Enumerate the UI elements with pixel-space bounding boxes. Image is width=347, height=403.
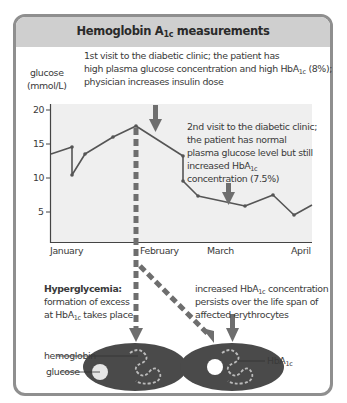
y-tick-10: 10 — [33, 171, 44, 184]
y-ticks — [46, 110, 50, 212]
hyperglycemia-annotation: Hyperglycemia: formation of excess at Hb… — [44, 282, 133, 321]
arrow-down-icon — [129, 328, 143, 342]
x-tick-april: April — [291, 244, 311, 257]
first-visit-arrow-shaft — [153, 105, 158, 120]
arrow-diagonal-icon — [202, 328, 214, 343]
persists-annotation: increased HbA1c concentration persists o… — [195, 282, 328, 321]
y-tick-20: 20 — [33, 103, 44, 116]
x-tick-february: February — [140, 244, 179, 257]
hba1c-label: HbA1c — [267, 354, 292, 367]
glucose-label: glucose — [46, 365, 80, 378]
first-visit-annotation: 1st visit to the diabetic clinic; the pa… — [84, 49, 332, 88]
y-tick-15: 15 — [33, 137, 44, 150]
y-tick-5: 5 — [38, 205, 44, 218]
hemoglobin-label: hemoglobin — [44, 349, 96, 362]
x-tick-january: January — [50, 244, 83, 257]
y-axis-label: glucose (mmol/L) — [27, 66, 67, 92]
x-tick-march: March — [207, 244, 234, 257]
second-visit-annotation: 2nd visit to the diabetic clinic; the pa… — [187, 120, 317, 185]
persist-arrow-icon — [226, 328, 239, 342]
bound-glucose — [207, 359, 223, 375]
